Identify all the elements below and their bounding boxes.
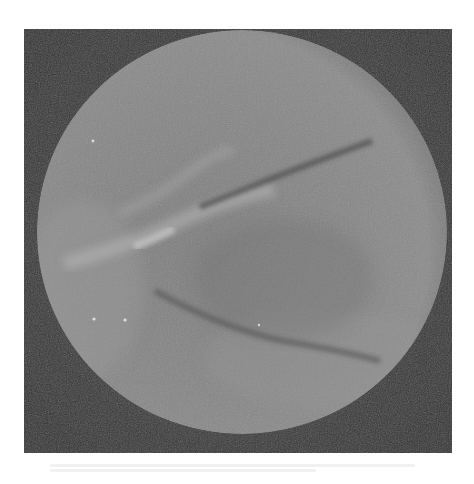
endoscopic-view <box>24 29 452 453</box>
faint-bleed-through <box>50 462 430 474</box>
speck <box>92 317 95 320</box>
speck <box>123 318 126 321</box>
speck <box>258 324 260 326</box>
image-frame <box>24 29 452 453</box>
speck <box>92 140 95 143</box>
